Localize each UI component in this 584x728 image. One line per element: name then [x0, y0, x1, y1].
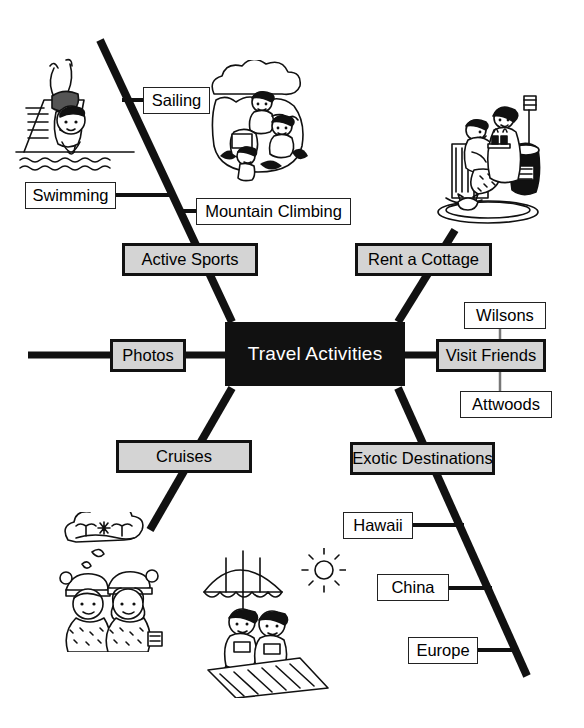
center-node-label: Travel Activities — [248, 343, 383, 365]
category-label-rent-a-cottage: Rent a Cottage — [368, 250, 479, 269]
rib-exotic-destinations — [398, 388, 527, 676]
leaf-label-attwoods: Attwoods — [472, 395, 540, 414]
leaf-box-sailing[interactable]: Sailing — [143, 87, 210, 114]
leaf-label-hawaii: Hawaii — [353, 516, 403, 535]
leaf-label-wilsons: Wilsons — [476, 306, 534, 325]
category-label-photos: Photos — [122, 346, 173, 365]
leaf-box-hawaii[interactable]: Hawaii — [343, 512, 413, 539]
category-label-exotic-destinations: Exotic Destinations — [352, 449, 492, 468]
mountain-climbers-illustration — [200, 60, 328, 188]
category-box-visit-friends[interactable]: Visit Friends — [436, 339, 546, 372]
leaf-box-china[interactable]: China — [377, 574, 449, 601]
category-label-active-sports: Active Sports — [141, 250, 238, 269]
leaf-label-mountain-climbing: Mountain Climbing — [205, 202, 342, 221]
couple-by-fireplace-illustration — [430, 92, 550, 226]
leaf-box-swimming[interactable]: Swimming — [25, 182, 116, 209]
leaf-label-china: China — [391, 578, 434, 597]
center-node-travel-activities[interactable]: Travel Activities — [225, 322, 405, 386]
leaf-box-mountain-climbing[interactable]: Mountain Climbing — [196, 198, 351, 225]
swimmer-diving-illustration — [14, 56, 136, 184]
category-box-cruises[interactable]: Cruises — [116, 440, 252, 473]
leaf-box-attwoods[interactable]: Attwoods — [460, 391, 552, 418]
fishbone-diagram-canvas: Travel Activities Active Sports Rent a C… — [0, 0, 584, 728]
category-box-active-sports[interactable]: Active Sports — [122, 243, 258, 276]
category-label-visit-friends: Visit Friends — [446, 346, 536, 365]
leaf-box-wilsons[interactable]: Wilsons — [464, 302, 546, 329]
category-box-exotic-destinations[interactable]: Exotic Destinations — [350, 442, 495, 475]
category-box-photos[interactable]: Photos — [110, 339, 186, 372]
leaf-label-sailing: Sailing — [152, 91, 202, 110]
category-label-cruises: Cruises — [156, 447, 212, 466]
category-box-rent-a-cottage[interactable]: Rent a Cottage — [355, 243, 492, 276]
leaf-label-europe: Europe — [416, 641, 469, 660]
sunbathers-under-umbrella-illustration — [196, 548, 346, 698]
couple-daydreaming-of-tropics-illustration — [52, 512, 180, 652]
leaf-label-swimming: Swimming — [32, 186, 108, 205]
leaf-box-europe[interactable]: Europe — [408, 637, 478, 664]
